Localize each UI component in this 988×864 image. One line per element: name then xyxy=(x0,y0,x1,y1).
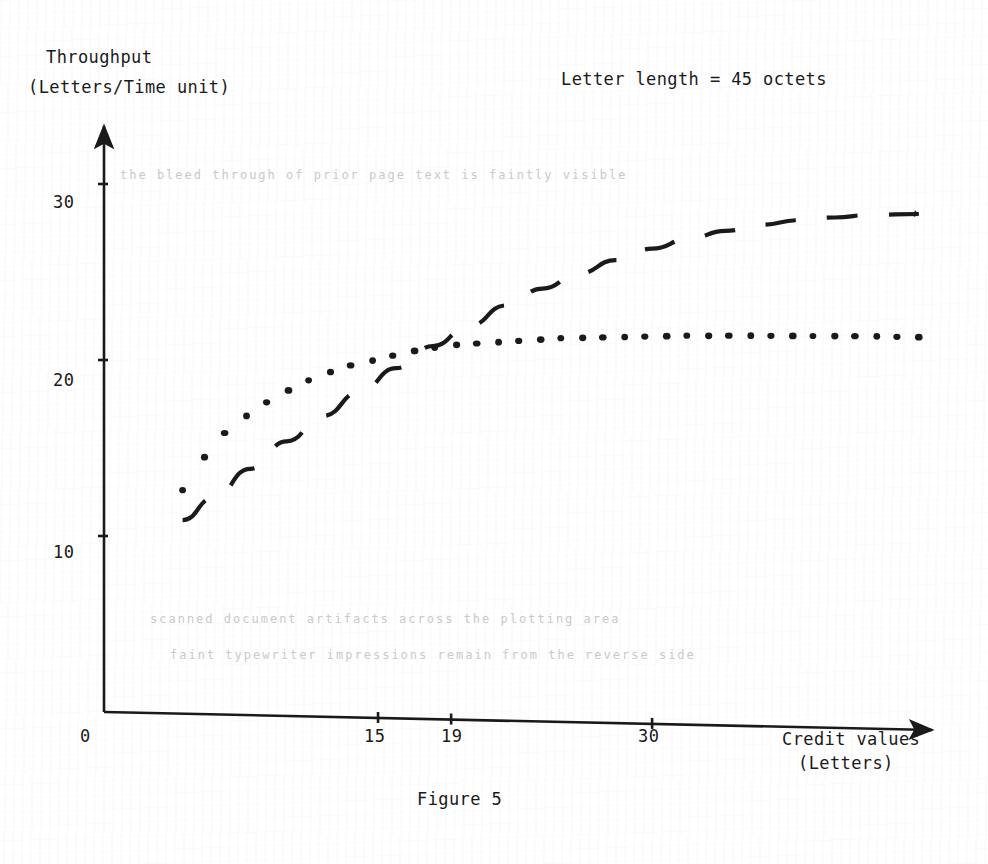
dotted-curve-point xyxy=(411,348,419,355)
dotted-curve-point xyxy=(705,332,712,339)
dotted-curve-point xyxy=(537,336,545,343)
dotted-curve-point xyxy=(831,333,838,340)
dotted-curve-point xyxy=(683,333,690,339)
dotted-curve-point xyxy=(915,334,923,341)
dotted-curve-point xyxy=(369,357,376,364)
dotted-curve-point xyxy=(179,487,186,493)
dotted-curve-point xyxy=(725,333,733,339)
axis-lines xyxy=(104,126,932,730)
dotted-curve-point xyxy=(747,332,754,339)
dotted-curve-point xyxy=(810,333,817,339)
plot-area xyxy=(0,0,988,864)
dotted-curve-point xyxy=(285,387,293,394)
dotted-curve-point xyxy=(579,334,586,341)
dotted-curve-point xyxy=(453,341,460,348)
x-axis-line xyxy=(104,712,932,730)
dotted-curve-point xyxy=(243,413,250,420)
dotted-curve-point xyxy=(263,399,270,405)
dotted-curve-point xyxy=(201,454,208,461)
figure-container: the bleed through of prior page text is … xyxy=(0,0,988,864)
dotted-curve-point xyxy=(347,362,355,368)
tick-marks xyxy=(98,184,652,729)
dotted-curve-point xyxy=(515,338,522,344)
dotted-curve-point xyxy=(431,345,438,351)
dotted-curve-point xyxy=(873,333,880,340)
dotted-curve-point xyxy=(473,340,481,346)
dotted-curve-point xyxy=(599,334,607,340)
dashed-curve-path xyxy=(183,214,919,520)
dotted-curve-point xyxy=(557,335,564,341)
dotted-curve-point xyxy=(663,333,671,340)
dotted-curve-point xyxy=(767,333,774,339)
dotted-curve-point xyxy=(851,333,859,339)
dotted-curve-point xyxy=(221,430,229,436)
series-dotted-curve xyxy=(179,332,922,493)
dotted-curve-point xyxy=(621,334,628,341)
series-dashed-curve xyxy=(183,210,919,520)
dotted-curve-point xyxy=(389,353,396,359)
dotted-curve-point xyxy=(641,334,648,340)
dotted-curve-point xyxy=(789,333,797,340)
dotted-curve-point xyxy=(893,334,900,340)
dotted-curve-point xyxy=(327,369,334,376)
dotted-curve-point xyxy=(495,339,502,346)
dotted-curve-point xyxy=(305,377,312,383)
